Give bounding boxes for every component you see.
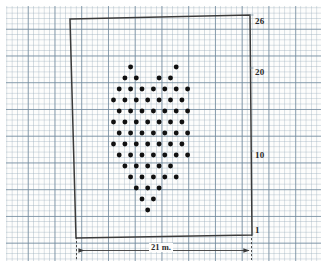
plot-dot: [134, 76, 139, 81]
plot-dot: [157, 164, 162, 169]
axis-label-middle: 10: [255, 151, 264, 160]
plot-dot: [122, 98, 127, 103]
plot-dot: [140, 153, 145, 158]
plot-dot: [128, 109, 133, 114]
plot-dot: [179, 98, 184, 103]
plot-dot: [134, 142, 139, 147]
plot-dot: [117, 109, 122, 114]
plot-dot: [174, 131, 179, 136]
plot-dot: [179, 120, 184, 125]
plot-dot: [145, 142, 150, 147]
plot-dot: [145, 208, 150, 213]
plot-dot: [168, 98, 173, 103]
diagram-vector-layer: [0, 0, 325, 273]
plot-dot: [185, 153, 190, 158]
plot-dot: [162, 131, 167, 136]
plot-dot: [122, 164, 127, 169]
plot-dot: [179, 142, 184, 147]
plot-dot: [117, 153, 122, 158]
plot-dot: [151, 131, 156, 136]
plot-dot: [151, 153, 156, 158]
plot-dot: [185, 131, 190, 136]
plot-dot: [122, 76, 127, 81]
plot-dot: [134, 164, 139, 169]
plot-dot: [145, 120, 150, 125]
plot-dot: [157, 76, 162, 81]
plot-dot: [157, 98, 162, 103]
plot-dot: [140, 87, 145, 92]
plot-dot: [174, 175, 179, 180]
axis-label-upper: 20: [255, 68, 264, 77]
plot-dot: [168, 120, 173, 125]
figure-canvas: 26 20 10 1 21 m.: [0, 0, 325, 273]
plot-dot: [168, 164, 173, 169]
plot-dot: [151, 175, 156, 180]
plot-dot: [134, 98, 139, 103]
plot-dot: [122, 120, 127, 125]
axis-label-top: 26: [255, 17, 264, 26]
plot-dot: [122, 142, 127, 147]
plot-dot: [117, 87, 122, 92]
dot-field: [111, 65, 190, 213]
plot-dot: [157, 142, 162, 147]
plot-dot: [151, 109, 156, 114]
plot-dot: [168, 142, 173, 147]
plot-dot: [174, 109, 179, 114]
plot-dot: [174, 65, 179, 70]
plot-dot: [134, 120, 139, 125]
plot-dot: [128, 153, 133, 158]
plot-dot: [145, 98, 150, 103]
plot-dot: [128, 131, 133, 136]
plot-dot: [145, 164, 150, 169]
plot-dot: [157, 120, 162, 125]
plot-dot: [134, 186, 139, 191]
plot-dot: [151, 197, 156, 202]
plot-dot: [140, 197, 145, 202]
plot-dot: [140, 109, 145, 114]
plot-dot: [111, 142, 116, 147]
plot-dot: [111, 120, 116, 125]
plot-dot: [140, 131, 145, 136]
plot-dot: [157, 186, 162, 191]
plot-dot: [162, 87, 167, 92]
plot-dot: [117, 131, 122, 136]
plot-outline: [70, 15, 252, 238]
plot-dot: [162, 153, 167, 158]
axis-label-bottom: 1: [255, 226, 260, 235]
plot-dot: [162, 175, 167, 180]
plot-dot: [174, 87, 179, 92]
dimension-label: 21 m.: [149, 243, 173, 252]
plot-dot: [174, 153, 179, 158]
plot-dot: [162, 109, 167, 114]
plot-dot: [128, 65, 133, 70]
plot-dot: [185, 109, 190, 114]
plot-dot: [111, 98, 116, 103]
plot-dot: [168, 76, 173, 81]
plot-dot: [140, 175, 145, 180]
plot-dot: [185, 87, 190, 92]
plot-dot: [145, 186, 150, 191]
plot-dot: [128, 87, 133, 92]
plot-dot: [128, 175, 133, 180]
plot-dot: [151, 87, 156, 92]
